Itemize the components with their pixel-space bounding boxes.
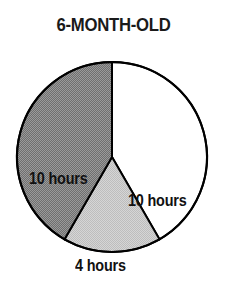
pie-label-light-gray-slice: 4 hours xyxy=(75,257,126,275)
pie-plot-area: 10 hours 10 hours 4 hours xyxy=(0,48,227,272)
pie-label-white-slice: 10 hours xyxy=(128,192,187,210)
chart-title: 6-MONTH-OLD xyxy=(14,14,214,36)
pie-svg xyxy=(0,48,227,272)
pie-label-dark-gray-slice: 10 hours xyxy=(29,170,88,188)
pie-chart-figure: 6-MONTH-OLD 10 hours 10 hour xyxy=(0,0,227,282)
